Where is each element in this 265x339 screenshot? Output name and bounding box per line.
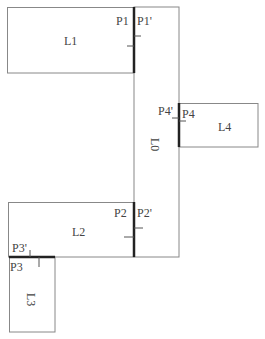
label-l4: L4 [218,120,231,134]
label-p3: P3 [10,260,23,274]
label-p4p: P4' [158,104,173,118]
label-p1p: P1' [137,14,152,28]
label-p4: P4 [182,107,195,121]
diagram-canvas: L1 L2 L4 L0 L3 P1 P1' P2 P2' P3 P3' P4 P… [0,0,265,339]
label-p1: P1 [116,14,129,28]
label-l0: L0 [148,138,162,151]
label-l2: L2 [72,225,85,239]
label-p3p: P3' [12,241,27,255]
label-l1: L1 [64,34,77,48]
label-p2: P2 [114,206,127,220]
label-p2p: P2' [137,206,152,220]
label-l3: L3 [24,293,38,306]
